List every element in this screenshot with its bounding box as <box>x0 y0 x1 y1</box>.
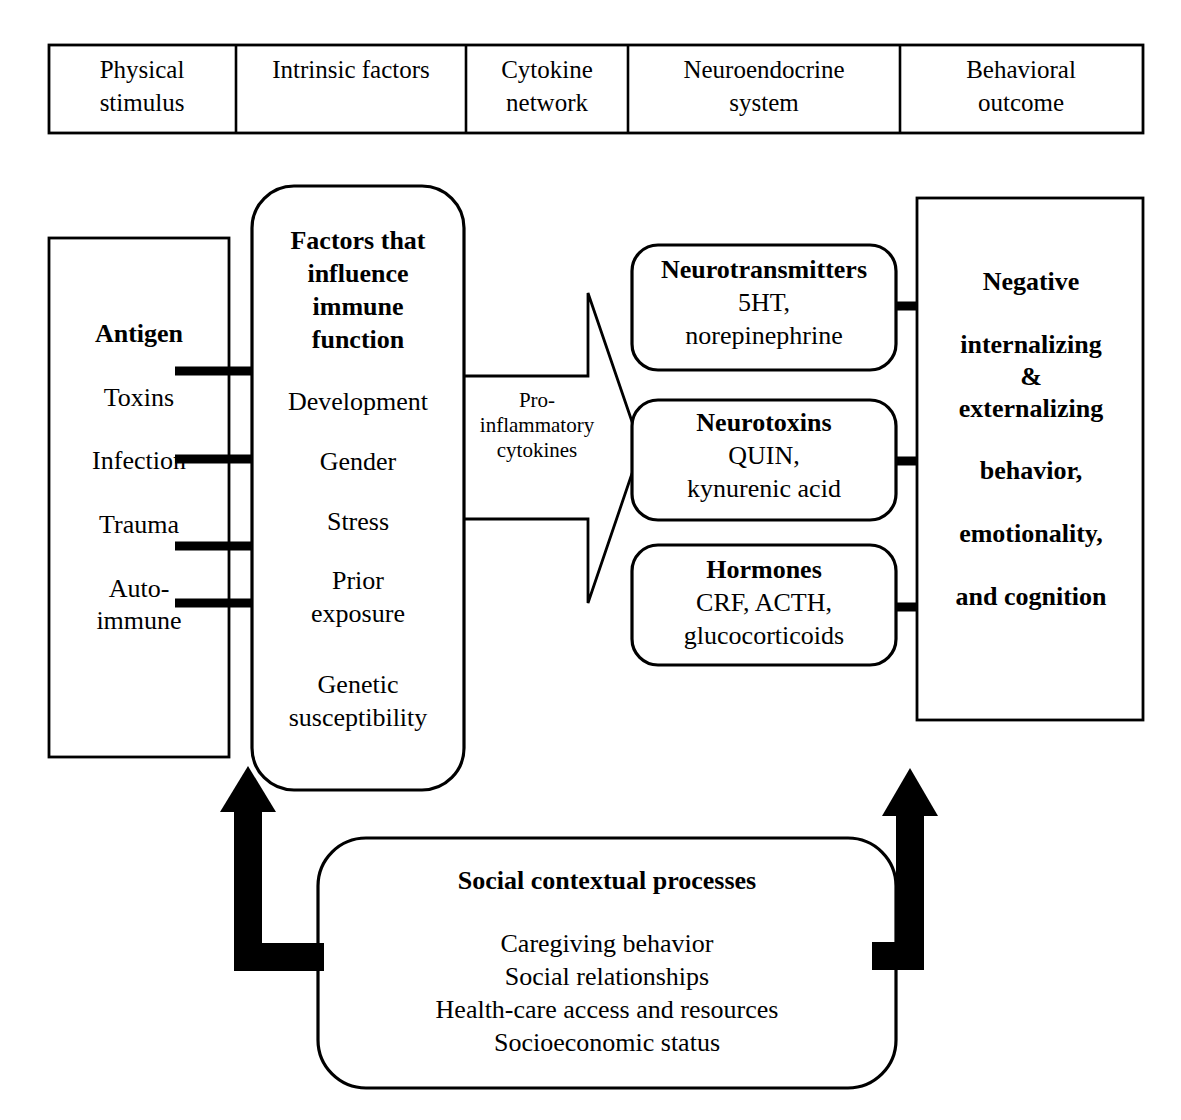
neurotransmitters-title: Neurotransmitters <box>661 255 867 284</box>
outcome-line-cognition: and cognition <box>956 582 1108 611</box>
factors-item-exposure: exposure <box>311 599 405 628</box>
header-col-2-line1: Cytokine <box>501 56 593 83</box>
factors-title-line2: influence <box>307 259 408 288</box>
neurotoxins-title: Neurotoxins <box>696 408 831 437</box>
social-context-title: Social contextual processes <box>458 866 757 895</box>
cytokine-bracket: Pro- inflammatory cytokines <box>464 293 640 603</box>
hormones-title: Hormones <box>706 555 822 584</box>
social-context-item-caregiving: Caregiving behavior <box>501 929 714 958</box>
outcome-line-ampersand: & <box>1020 362 1042 391</box>
header-table: Physical stimulus Intrinsic factors Cyto… <box>49 45 1143 133</box>
stimulus-item-infection: Infection <box>92 446 186 475</box>
social-context-item-relationships: Social relationships <box>505 962 709 991</box>
neurotoxins-box: Neurotoxins QUIN, kynurenic acid <box>632 400 896 520</box>
outcome-line-emotionality: emotionality, <box>959 519 1103 548</box>
social-context-item-ses: Socioeconomic status <box>494 1028 720 1057</box>
feedback-arrow-foot-left <box>234 943 324 971</box>
header-col-4-line2: outcome <box>978 89 1064 116</box>
feedback-arrow-foot-right <box>872 942 924 970</box>
stimulus-item-autoimmune-line1: Auto- <box>109 574 170 603</box>
neurotoxins-line1: QUIN, <box>728 441 800 470</box>
factors-item-susceptibility: susceptibility <box>289 703 428 732</box>
outcome-line-internalizing: internalizing <box>960 330 1102 359</box>
cytokine-label-line1: Pro- <box>519 388 555 412</box>
stimulus-item-autoimmune-line2: immune <box>96 606 181 635</box>
intrinsic-factors-box: Factors that influence immune function D… <box>252 186 464 790</box>
outcome-line-externalizing: externalizing <box>959 394 1103 423</box>
outcome-line-behavior: behavior, <box>980 456 1082 485</box>
physical-stimulus-border <box>49 238 229 757</box>
header-col-1-line1: Intrinsic factors <box>272 56 430 83</box>
outcome-line-negative: Negative <box>983 267 1080 296</box>
social-context-item-healthcare: Health-care access and resources <box>436 995 779 1024</box>
hormones-line2: glucocorticoids <box>684 621 844 650</box>
physical-stimulus-box: Antigen Toxins Infection Trauma Auto- im… <box>49 238 229 757</box>
cytokine-label-line3: cytokines <box>497 438 577 462</box>
factors-title-line1: Factors that <box>290 226 425 255</box>
hormones-line1: CRF, ACTH, <box>696 588 832 617</box>
header-col-4-line1: Behavioral <box>966 56 1076 83</box>
behavioral-outcome-box: Negative internalizing & externalizing b… <box>917 198 1143 720</box>
feedback-arrow-to-factors <box>220 766 324 971</box>
neurotransmitters-box: Neurotransmitters 5HT, norepinephrine <box>632 245 896 370</box>
factors-title-line4: function <box>312 325 405 354</box>
stimulus-item-trauma: Trauma <box>99 510 179 539</box>
header-col-2-line2: network <box>506 89 588 116</box>
cytokine-label-line2: inflammatory <box>480 413 595 437</box>
hormones-box: Hormones CRF, ACTH, glucocorticoids <box>632 545 896 665</box>
feedback-arrow-head-right <box>882 768 938 816</box>
header-col-3-line2: system <box>729 89 799 116</box>
factors-item-stress: Stress <box>327 507 389 536</box>
factors-item-gender: Gender <box>320 447 397 476</box>
neurotransmitters-line2: norepinephrine <box>685 321 842 350</box>
factors-item-prior: Prior <box>332 566 384 595</box>
header-col-0-line1: Physical <box>100 56 185 83</box>
neurotoxins-line2: kynurenic acid <box>687 474 841 503</box>
factors-item-development: Development <box>288 387 429 416</box>
factors-item-genetic: Genetic <box>318 670 399 699</box>
header-col-3-line1: Neuroendocrine <box>683 56 844 83</box>
neurotransmitters-line1: 5HT, <box>738 288 790 317</box>
social-context-box: Social contextual processes Caregiving b… <box>318 838 896 1088</box>
stimulus-item-toxins: Toxins <box>104 383 174 412</box>
header-col-0-line2: stimulus <box>100 89 185 116</box>
factors-title-line3: immune <box>313 292 404 321</box>
diagram-canvas: Physical stimulus Intrinsic factors Cyto… <box>0 0 1181 1120</box>
stimulus-item-antigen: Antigen <box>95 319 184 348</box>
